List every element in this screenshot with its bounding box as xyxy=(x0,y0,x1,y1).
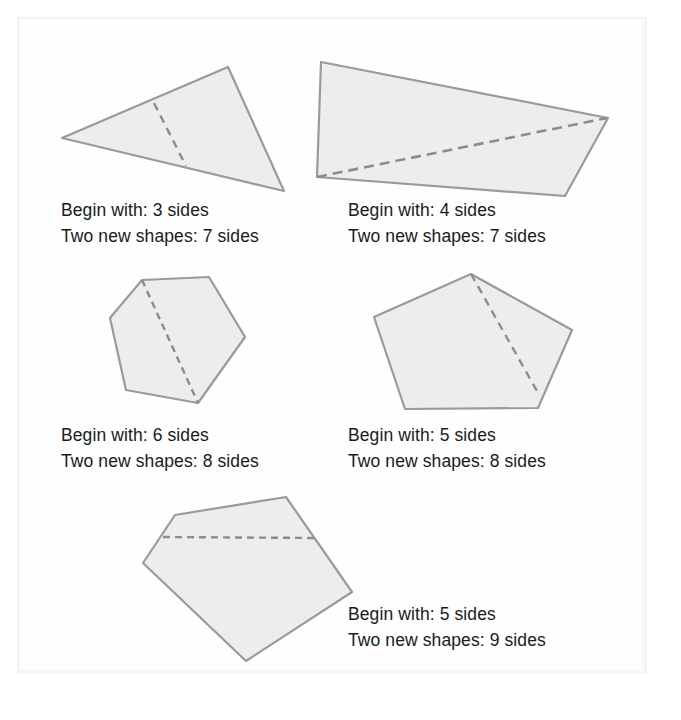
shape-pentagon-group xyxy=(374,274,572,409)
shape-triangle-group xyxy=(62,67,284,191)
shape-pentagon xyxy=(374,274,572,409)
caption-pentagon: Begin with: 5 sides Two new shapes: 8 si… xyxy=(348,422,546,474)
caption-hexagon-begin: Begin with: 6 sides xyxy=(61,422,259,448)
caption-triangle-result: Two new shapes: 7 sides xyxy=(61,223,259,249)
shape-triangle xyxy=(62,67,284,191)
shape-hexagon xyxy=(110,277,245,403)
caption-pentagon-begin: Begin with: 5 sides xyxy=(348,422,546,448)
caption-pentagon-result: Two new shapes: 8 sides xyxy=(348,448,546,474)
caption-hexagon: Begin with: 6 sides Two new shapes: 8 si… xyxy=(61,422,259,474)
caption-hexagon-result: Two new shapes: 8 sides xyxy=(61,448,259,474)
caption-triangle-begin: Begin with: 3 sides xyxy=(61,197,259,223)
caption-pentagon-wide-result: Two new shapes: 9 sides xyxy=(348,627,546,653)
caption-triangle: Begin with: 3 sides Two new shapes: 7 si… xyxy=(61,197,259,249)
shape-quadrilateral xyxy=(317,62,608,196)
figure-page: Begin with: 3 sides Two new shapes: 7 si… xyxy=(0,0,681,720)
caption-quadrilateral-result: Two new shapes: 7 sides xyxy=(348,223,546,249)
shapes-diagram xyxy=(0,0,681,720)
caption-quadrilateral-begin: Begin with: 4 sides xyxy=(348,197,546,223)
caption-quadrilateral: Begin with: 4 sides Two new shapes: 7 si… xyxy=(348,197,546,249)
shape-hexagon-group xyxy=(110,277,245,403)
shape-pentagon-wide-group xyxy=(143,497,352,661)
shape-pentagon-wide xyxy=(143,497,352,661)
shape-quadrilateral-group xyxy=(317,62,608,196)
caption-pentagon-wide: Begin with: 5 sides Two new shapes: 9 si… xyxy=(348,601,546,653)
caption-pentagon-wide-begin: Begin with: 5 sides xyxy=(348,601,546,627)
